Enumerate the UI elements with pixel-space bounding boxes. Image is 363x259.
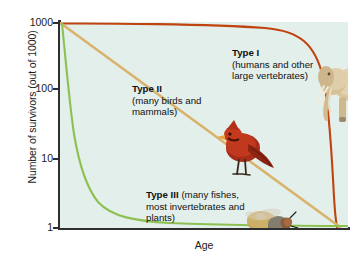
annotation-type-3-heading: Type III: [146, 189, 179, 200]
survivorship-curve-figure: Number of survivors (out of 1000) 1000 1…: [0, 0, 363, 259]
annotation-type-1-heading: Type I: [232, 47, 259, 58]
y-tick-label-100: 100: [35, 82, 53, 94]
y-axis-tick-labels: 1000 100 10 1: [0, 0, 53, 259]
plot-area: Type I (humans and other large vertebrat…: [60, 22, 348, 228]
annotation-type-2-body: (many birds and mammals): [132, 95, 201, 118]
annotation-type-3: Type III (many fishes, most invertebrate…: [146, 189, 254, 224]
annotation-type-2-heading: Type II: [132, 83, 162, 94]
annotation-type-1: Type I (humans and other large vertebrat…: [232, 47, 318, 82]
y-tick-label-1000: 1000: [30, 16, 53, 28]
annotation-type-2: Type II (many birds and mammals): [132, 83, 220, 118]
annotation-type-1-body: (humans and other large vertebrates): [232, 59, 313, 82]
x-axis-title: Age: [60, 239, 348, 251]
cardinal-bird-icon: [215, 118, 277, 188]
y-tick-label-10: 10: [41, 152, 53, 164]
